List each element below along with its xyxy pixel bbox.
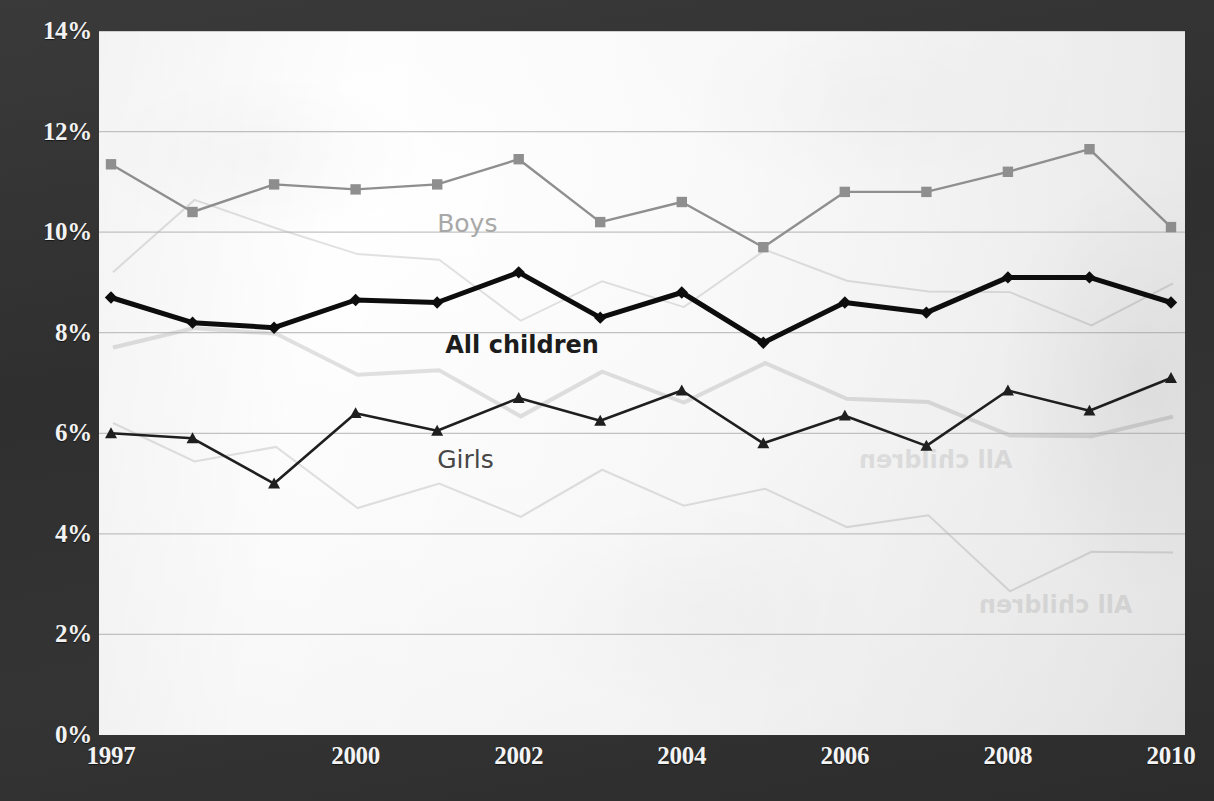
y-axis-tick-label: 0% xyxy=(6,721,92,749)
data-point-marker xyxy=(513,392,525,403)
plot-area: Boys All children Girls All childrenAll … xyxy=(99,31,1185,735)
data-point-marker xyxy=(350,184,360,194)
data-point-marker xyxy=(349,294,361,306)
y-axis-tick-label: 8% xyxy=(6,319,92,347)
data-point-marker xyxy=(921,187,931,197)
data-point-marker xyxy=(514,154,524,164)
data-point-marker xyxy=(1083,271,1095,283)
x-axis-tick-label: 2010 xyxy=(1147,742,1196,770)
data-point-marker xyxy=(268,321,280,333)
data-point-marker xyxy=(839,410,851,421)
series-label-all-children: All children xyxy=(445,331,599,359)
x-axis-tick-label: 2002 xyxy=(494,742,543,770)
data-point-marker xyxy=(350,407,362,418)
page-background: 0%2%4%6%8%10%12%14% Boys All children Gi… xyxy=(0,0,1214,801)
y-axis-tick-label: 6% xyxy=(6,419,92,447)
series-label-boys: Boys xyxy=(437,209,497,238)
data-point-marker xyxy=(187,207,197,217)
series-label-girls: Girls xyxy=(437,445,494,474)
data-point-marker xyxy=(677,197,687,207)
x-axis: 1997200020022004200620082010 xyxy=(99,742,1185,787)
data-point-marker xyxy=(595,217,605,227)
y-axis-tick-label: 12% xyxy=(6,118,92,146)
data-point-marker xyxy=(1166,222,1176,232)
data-point-marker xyxy=(186,316,198,328)
data-point-marker xyxy=(269,179,279,189)
data-point-marker xyxy=(431,296,443,308)
data-point-marker xyxy=(1003,167,1013,177)
data-point-marker xyxy=(676,385,688,396)
data-point-marker xyxy=(1165,296,1177,308)
x-axis-tick-label: 1997 xyxy=(87,742,136,770)
data-point-marker xyxy=(1165,372,1177,383)
data-point-marker xyxy=(1002,385,1014,396)
data-point-marker xyxy=(432,179,442,189)
series-all-children xyxy=(105,266,1177,349)
x-axis-tick-label: 2006 xyxy=(820,742,869,770)
data-point-marker xyxy=(105,291,117,303)
y-axis: 0%2%4%6%8%10%12%14% xyxy=(0,31,93,735)
x-axis-tick-label: 2008 xyxy=(984,742,1033,770)
series-lines xyxy=(99,31,1185,735)
data-point-marker xyxy=(106,159,116,169)
x-axis-tick-label: 2004 xyxy=(657,742,706,770)
y-axis-tick-label: 2% xyxy=(6,620,92,648)
data-point-marker xyxy=(758,242,768,252)
data-point-marker xyxy=(840,187,850,197)
series-girls xyxy=(105,372,1177,489)
y-axis-tick-label: 10% xyxy=(6,218,92,246)
data-point-marker xyxy=(1084,144,1094,154)
y-axis-tick-label: 4% xyxy=(6,520,92,548)
x-axis-tick-label: 2000 xyxy=(331,742,380,770)
series-boys xyxy=(106,144,1176,252)
y-axis-tick-label: 14% xyxy=(6,17,92,45)
